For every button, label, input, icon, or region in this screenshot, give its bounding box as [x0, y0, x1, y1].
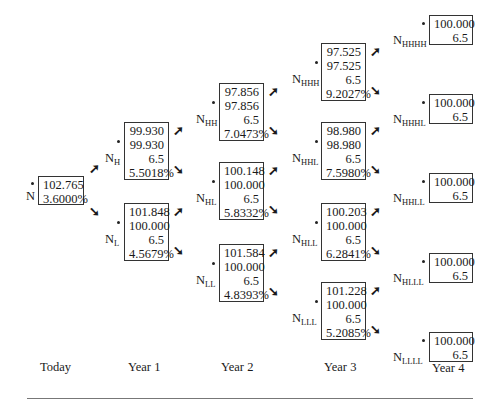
year-label-1: Year 1 — [128, 360, 160, 375]
arrow-up-icon: ➚ — [268, 85, 279, 98]
arrow-down-icon: ➘ — [173, 163, 184, 176]
node-label: NHLL — [292, 232, 318, 248]
arrow-up-icon: ➚ — [370, 45, 381, 58]
node-box: 100.0006.5 — [429, 15, 473, 45]
arrow-up-icon: ➚ — [370, 124, 381, 137]
arrow-down-icon: ➘ — [268, 124, 279, 137]
node-dot — [212, 262, 215, 265]
arrow-up-icon: ➚ — [370, 284, 381, 297]
node-value: 102.765 — [43, 178, 79, 192]
node-box: 100.0006.5 — [429, 253, 473, 283]
arrow-down-icon: ➘ — [89, 205, 100, 218]
node-box: 97.52597.5256.59.2027% — [321, 43, 366, 101]
node-dot — [422, 22, 425, 25]
node-box: 98.98098.9806.57.5980% — [321, 122, 366, 180]
node-box: 100.0006.5 — [429, 173, 473, 203]
node-dot — [212, 180, 215, 183]
year-label-2: Year 2 — [221, 360, 253, 375]
node-dot — [117, 221, 120, 224]
node-box: 99.93099.9306.55.5018% — [124, 122, 169, 180]
node-box: 100.0006.5 — [429, 332, 473, 362]
node-label: NHHLL — [393, 191, 425, 207]
node-box: 101.848100.0006.54.5679% — [124, 203, 169, 261]
node-label: NHL — [196, 191, 216, 207]
arrow-down-icon: ➘ — [173, 244, 184, 257]
arrow-down-icon: ➘ — [370, 244, 381, 257]
year-label-today: Today — [40, 360, 71, 375]
node-box: 102.765 3.6000% — [38, 176, 84, 205]
node-dot — [422, 339, 425, 342]
node-box: 100.0006.5 — [429, 94, 473, 124]
node-label: NHHHL — [393, 112, 426, 128]
node-dot — [315, 61, 318, 64]
node-label: NLL — [196, 273, 215, 289]
node-dot — [31, 182, 34, 185]
node-dot — [422, 101, 425, 104]
binomial-tree-diagram: { "title": "Binomial interest rate tree … — [0, 0, 497, 404]
node-dot — [315, 140, 318, 143]
node-label: NHHL — [292, 151, 319, 167]
arrow-down-icon: ➘ — [268, 285, 279, 298]
arrow-down-icon: ➘ — [370, 323, 381, 336]
node-label: NL — [105, 232, 119, 248]
node-box: 97.85697.8566.57.0473% — [219, 83, 264, 141]
node-box: 101.228100.0006.55.2085% — [321, 282, 366, 340]
node-label: N — [26, 189, 35, 204]
arrow-up-icon: ➚ — [173, 124, 184, 137]
arrow-up-icon: ➚ — [268, 246, 279, 259]
node-rate: 3.6000% — [43, 192, 79, 206]
node-dot — [422, 180, 425, 183]
arrow-up-icon: ➚ — [173, 205, 184, 218]
node-dot — [315, 300, 318, 303]
year-label-3: Year 3 — [324, 360, 356, 375]
node-label: NHH — [196, 112, 217, 128]
node-dot — [117, 140, 120, 143]
node-box: 100.148100.0006.55.8332% — [219, 162, 264, 220]
node-label: NH — [105, 151, 120, 167]
node-box: 100.203100.0006.56.2841% — [321, 203, 366, 261]
node-box: 101.584100.0006.54.8393% — [219, 244, 264, 302]
arrow-up-icon: ➚ — [268, 164, 279, 177]
node-dot — [422, 260, 425, 263]
node-dot — [212, 101, 215, 104]
arrow-up-icon: ➚ — [89, 162, 100, 175]
arrow-down-icon: ➘ — [370, 163, 381, 176]
arrow-up-icon: ➚ — [370, 205, 381, 218]
node-label: NLLLL — [393, 350, 423, 366]
node-dot — [315, 221, 318, 224]
node-label: NHLLL — [393, 271, 424, 287]
arrow-down-icon: ➘ — [268, 203, 279, 216]
node-label: NHHH — [292, 72, 319, 88]
arrow-down-icon: ➘ — [370, 84, 381, 97]
bottom-rule — [27, 398, 473, 399]
year-label-4: Year 4 — [432, 361, 464, 376]
node-label: NLLL — [292, 311, 317, 327]
node-label: NHHHH — [393, 33, 427, 49]
